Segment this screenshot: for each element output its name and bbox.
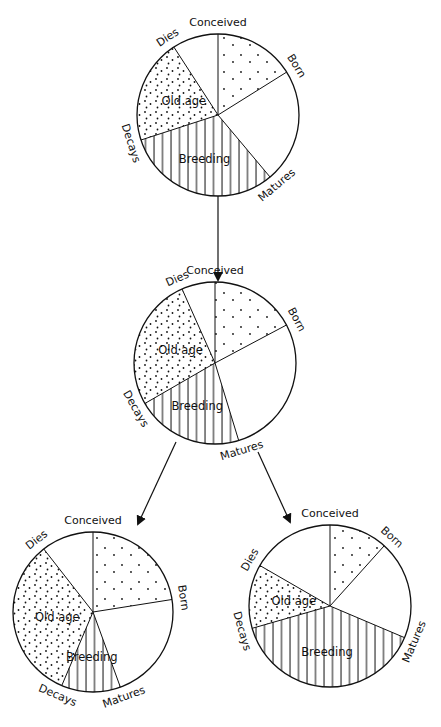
sector-juvenile	[215, 282, 287, 363]
label-breeding: Breeding	[171, 399, 223, 413]
label-dies: Dies	[164, 268, 191, 290]
sector-juvenile	[330, 525, 384, 606]
label-breeding: Breeding	[301, 645, 353, 659]
label-dies: Dies	[23, 527, 50, 552]
life-cycle-diagram: ConceivedBornMaturesDecaysDiesOld ageBre…	[0, 0, 441, 727]
label-born: Born	[175, 584, 192, 611]
label-conceived: Conceived	[64, 514, 122, 527]
label-old-age: Old age	[35, 610, 80, 624]
label-breeding: Breeding	[66, 650, 118, 664]
pie-top: ConceivedBornMaturesDecaysDiesOld ageBre…	[119, 16, 309, 204]
pie-bottom-left: ConceivedBornMaturesDecaysDiesOld ageBre…	[13, 514, 192, 711]
label-conceived: Conceived	[186, 264, 244, 277]
sector-juvenile	[218, 34, 287, 115]
label-old-age: Old age	[271, 594, 316, 608]
label-born: Born	[284, 52, 309, 81]
label-conceived: Conceived	[189, 16, 247, 29]
label-old-age: Old age	[162, 94, 207, 108]
pie-bottom-right: ConceivedBornMaturesDecaysDiesOld ageBre…	[230, 507, 429, 687]
arrow-middle-to-bottom-left	[138, 442, 176, 524]
label-dies: Dies	[154, 25, 181, 49]
label-matures: Matures	[400, 619, 429, 665]
label-old-age: Old age	[158, 343, 203, 357]
label-breeding: Breeding	[179, 152, 231, 166]
arrow-middle-to-bottom-right	[258, 452, 290, 522]
pie-middle: ConceivedBornMaturesDecaysDiesOld ageBre…	[120, 264, 308, 463]
label-conceived: Conceived	[301, 507, 359, 520]
sector-juvenile	[93, 532, 172, 612]
